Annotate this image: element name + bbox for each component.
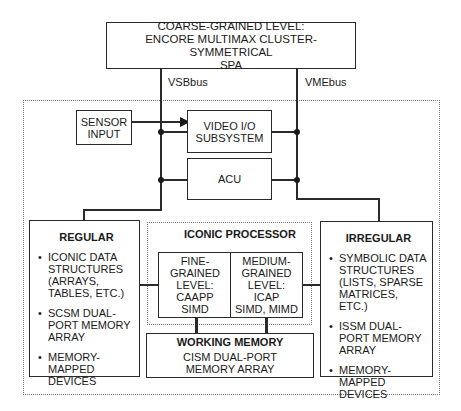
junction-dot	[158, 177, 164, 183]
vsb-video-link	[161, 131, 187, 133]
sensor-line1: SENSOR	[81, 116, 127, 128]
vsb-acu-link	[161, 179, 187, 181]
acu-label: ACU	[218, 173, 241, 185]
fine-line: GRAINED	[170, 267, 220, 279]
fine-line: FINE-	[181, 255, 210, 267]
junction-dot	[294, 177, 300, 183]
fine-line: SIMD	[181, 303, 209, 315]
coarse-grained-box: COARSE-GRAINED LEVEL: ENCORE MULTIMAX CL…	[106, 22, 356, 69]
list-item: ICONIC DATA STRUCTURES (ARRAYS, TABLES, …	[38, 251, 135, 299]
vsb-to-regular-v	[83, 209, 85, 220]
coarse-line2: ENCORE MULTIMAX CLUSTER-SYMMETRICAL	[107, 33, 355, 59]
vsb-to-regular-h	[83, 209, 162, 211]
vme-to-irregular-h	[296, 198, 380, 200]
medium-line: ICAP	[254, 291, 280, 303]
sensor-to-video-line	[132, 121, 187, 123]
list-item: MEMORY-MAPPED DEVICES	[329, 364, 428, 400]
fine-grained-box: FINE- GRAINED LEVEL: CAAPP SIMD	[158, 252, 232, 318]
regular-to-iconic-link	[140, 284, 158, 286]
vme-bus-label: VMEbus	[305, 76, 347, 88]
vme-bus-line-lower	[296, 99, 298, 199]
acu-box: ACU	[187, 158, 272, 200]
vme-bus-line	[296, 69, 298, 99]
iconic-processor-title: ICONIC PROCESSOR	[184, 228, 296, 240]
list-item: MEMORY-MAPPED DEVICES	[38, 351, 135, 387]
working-memory-title: WORKING MEMORY	[177, 336, 284, 348]
medium-line: LEVEL:	[248, 279, 285, 291]
coarse-line1: COARSE-GRAINED LEVEL:	[158, 20, 305, 33]
irregular-box: IRREGULAR SYMBOLIC DATA STRUCTURES (LIST…	[320, 221, 433, 377]
medium-line: GRAINED	[241, 267, 291, 279]
fine-line: CAAPP	[176, 291, 213, 303]
working-memory-line1: CISM DUAL-PORT	[183, 351, 277, 363]
medium-line: SIMD, MIMD	[235, 303, 298, 315]
vsb-bus-label: VSBbus	[168, 76, 208, 88]
medium-to-memory-link	[265, 318, 268, 333]
junction-dot	[294, 129, 300, 135]
video-line2: SUBSYSTEM	[196, 132, 264, 144]
video-io-box: VIDEO I/O SUBSYSTEM	[187, 110, 272, 153]
working-memory-box: WORKING MEMORY CISM DUAL-PORT MEMORY ARR…	[146, 333, 314, 378]
irregular-title: IRREGULAR	[346, 232, 411, 244]
medium-grained-box: MEDIUM- GRAINED LEVEL: ICAP SIMD, MIMD	[230, 252, 303, 318]
medium-line: MEDIUM-	[242, 255, 290, 267]
irregular-list: SYMBOLIC DATA STRUCTURES (LISTS, SPARSE …	[329, 244, 428, 400]
list-item: ISSM DUAL-PORT MEMORY ARRAY	[329, 320, 428, 356]
fine-line: LEVEL:	[176, 279, 213, 291]
sensor-input-box: SENSOR INPUT	[76, 110, 132, 145]
list-item: SCSM DUAL-PORT MEMORY ARRAY	[38, 307, 135, 343]
iconic-to-irregular-link	[303, 284, 321, 286]
junction-dot	[158, 129, 164, 135]
vsb-bus-line	[160, 69, 162, 210]
working-memory-line2: MEMORY ARRAY	[186, 363, 275, 375]
video-line1: VIDEO I/O	[204, 120, 256, 132]
regular-list: ICONIC DATA STRUCTURES (ARRAYS, TABLES, …	[38, 243, 135, 387]
sensor-line2: INPUT	[88, 128, 121, 140]
list-item: SYMBOLIC DATA STRUCTURES (LISTS, SPARSE …	[329, 252, 428, 312]
regular-box: REGULAR ICONIC DATA STRUCTURES (ARRAYS, …	[29, 220, 140, 377]
fine-to-memory-link	[195, 318, 198, 333]
vme-to-irregular-v	[378, 198, 380, 221]
coarse-line3: SPA	[220, 59, 242, 72]
regular-title: REGULAR	[59, 231, 113, 243]
